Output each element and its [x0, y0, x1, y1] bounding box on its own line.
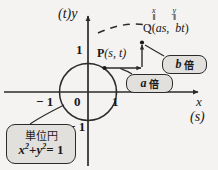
callout-a-coefficient: a — [141, 76, 147, 91]
callout-unit-circle-equation: x2+y2= 1 — [19, 143, 64, 158]
a-box-leader — [120, 69, 132, 75]
x-axis-label-s: (s) — [190, 110, 205, 124]
figure-canvas: (t)y x (s) 1 − 1 1 − 1 0 P(s, t) x ‖ y ‖… — [0, 0, 218, 170]
callout-b-coefficient: b — [176, 57, 182, 72]
point-q-label: Q(as, bt) — [143, 22, 189, 34]
callout-b-word: 倍 — [184, 57, 194, 72]
q-overhead-y: y ‖ — [173, 7, 177, 21]
x-axis-label: x — [196, 95, 202, 108]
tick-label-y-one: 1 — [76, 43, 83, 56]
tick-label-origin: 0 — [74, 95, 81, 108]
callout-unit-circle-title: 単位円 — [25, 131, 58, 143]
q-overhead-x: x ‖ — [152, 7, 156, 21]
tick-label-x-one: 1 — [112, 95, 119, 108]
y-axis-label-t: (t) — [58, 6, 71, 21]
callout-a-word: 倍 — [149, 76, 159, 91]
point-p-dot — [102, 66, 106, 70]
tick-label-x-minus-one: − 1 — [36, 95, 53, 108]
point-p-label: P(s, t) — [97, 47, 126, 59]
callout-a-multiplier[interactable]: a倍 — [126, 74, 173, 93]
callout-b-multiplier[interactable]: b倍 — [162, 55, 207, 74]
point-q-overhead-equalities: x ‖ y ‖ — [152, 6, 176, 21]
callout-unit-circle[interactable]: 単位円 x2+y2= 1 — [6, 124, 76, 164]
b-box-leader — [145, 45, 164, 56]
y-axis-label-y: y — [71, 6, 77, 21]
point-q-dot — [140, 40, 144, 44]
y-axis-label: (t)y — [58, 7, 77, 21]
